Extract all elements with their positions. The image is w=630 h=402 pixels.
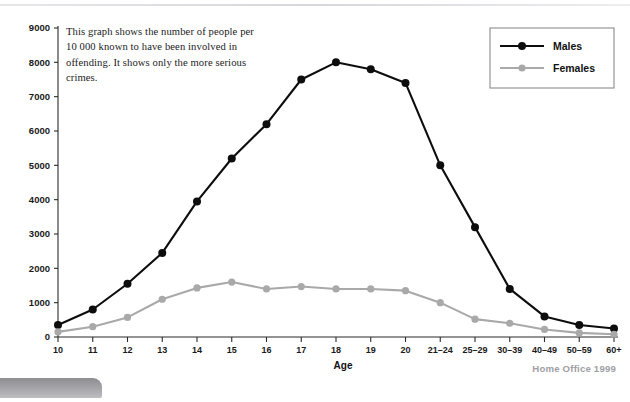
- y-axis-tick-label: 7000: [29, 91, 50, 102]
- data-point-females: [263, 285, 270, 292]
- data-point-females: [437, 299, 444, 306]
- data-point-males: [541, 312, 549, 320]
- y-axis-tick-label: 9000: [29, 22, 50, 33]
- y-axis-tick-label: 4000: [29, 194, 50, 205]
- data-point-females: [159, 296, 166, 303]
- data-point-females: [402, 287, 409, 294]
- data-point-males: [124, 280, 132, 288]
- x-axis-tick-label: 30–39: [497, 345, 522, 355]
- x-axis-tick-label: 19: [366, 345, 376, 355]
- data-point-females: [124, 314, 131, 321]
- legend-box: [490, 28, 614, 88]
- y-axis-tick-label: 5000: [29, 160, 50, 171]
- x-axis-tick-label: 17: [296, 345, 306, 355]
- x-axis-tick-label: 12: [122, 345, 132, 355]
- data-point-males: [436, 161, 444, 169]
- x-axis-tick-label: 21–24: [428, 345, 453, 355]
- x-axis-tick-label: 15: [227, 345, 237, 355]
- x-axis-tick-label: 40–49: [532, 345, 557, 355]
- data-point-males: [228, 154, 236, 162]
- x-axis-tick-label: 13: [157, 345, 167, 355]
- data-point-males: [402, 79, 410, 87]
- y-axis-tick-label: 6000: [29, 125, 50, 136]
- data-point-males: [471, 223, 479, 231]
- y-axis-tick-label: 3000: [29, 228, 50, 239]
- legend-swatch-dot-males: [518, 42, 526, 50]
- data-point-males: [158, 249, 166, 257]
- data-point-males: [193, 197, 201, 205]
- data-point-males: [506, 285, 514, 293]
- y-axis-tick-label: 1000: [29, 297, 50, 308]
- x-axis-tick-label: 10: [53, 345, 63, 355]
- x-axis-tick-label: 60+: [606, 345, 621, 355]
- legend-swatch-dot-females: [518, 64, 525, 71]
- y-axis-tick-label: 2000: [29, 263, 50, 274]
- data-point-males: [332, 58, 340, 66]
- x-axis-tick-label: 18: [331, 345, 341, 355]
- data-point-females: [576, 329, 583, 336]
- data-point-females: [54, 328, 61, 335]
- data-point-females: [332, 285, 339, 292]
- data-point-males: [263, 120, 271, 128]
- y-axis-tick-label: 0: [45, 331, 50, 342]
- data-point-females: [193, 284, 200, 291]
- data-point-males: [89, 306, 97, 314]
- data-point-females: [506, 320, 513, 327]
- data-point-males: [54, 321, 62, 329]
- x-axis-tick-label: 20: [400, 345, 410, 355]
- data-point-females: [89, 323, 96, 330]
- series-layer: [54, 58, 618, 338]
- x-axis-tick-label: 14: [192, 345, 202, 355]
- x-axis-tick-label: 25–29: [462, 345, 487, 355]
- x-axis-title: Age: [334, 360, 353, 371]
- x-axis-tick-label: 16: [261, 345, 271, 355]
- bottom-tab-shape: [0, 378, 102, 398]
- data-point-males: [575, 321, 583, 329]
- x-axis: 101112131415161718192021–2425–2930–3940–…: [53, 337, 622, 355]
- legend-label-males: Males: [553, 40, 582, 52]
- source-attribution: Home Office 1999: [532, 363, 616, 374]
- data-point-females: [367, 285, 374, 292]
- chart-legend: MalesFemales: [490, 28, 614, 88]
- y-axis: 0100020003000400050006000700080009000: [29, 22, 58, 342]
- data-point-males: [297, 76, 305, 84]
- data-point-females: [541, 326, 548, 333]
- legend-label-females: Females: [553, 62, 595, 74]
- data-point-males: [367, 65, 375, 73]
- y-axis-tick-label: 8000: [29, 57, 50, 68]
- data-point-females: [471, 316, 478, 323]
- data-point-females: [298, 283, 305, 290]
- chart-annotation-text: This graph shows the number of people pe…: [66, 24, 256, 86]
- x-axis-tick-label: 50–59: [567, 345, 592, 355]
- data-point-females: [228, 278, 235, 285]
- data-point-females: [610, 331, 617, 338]
- x-axis-tick-label: 11: [88, 345, 98, 355]
